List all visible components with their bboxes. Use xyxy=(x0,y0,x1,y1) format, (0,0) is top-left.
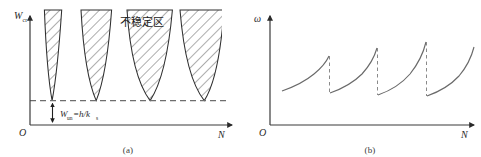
y-axis-label-b: ω xyxy=(254,13,261,24)
threshold-formula: W un =h/k s xyxy=(60,109,98,121)
figure-container: W cr N O 不稳定区 W un =h/k s (a) xyxy=(0,0,481,157)
origin-label-b: O xyxy=(259,127,266,138)
x-axis-label-a: N xyxy=(217,129,226,140)
caption-panel-b: (b) xyxy=(240,145,481,155)
origin-label-a: O xyxy=(19,127,26,138)
unstable-tongue-2 xyxy=(81,10,112,101)
caption-panel-a: (a) xyxy=(0,145,248,155)
threshold-formula-rhs: =h/k xyxy=(73,109,91,119)
threshold-formula-rhs-subscript: s xyxy=(96,115,98,121)
x-axis-label-b: N xyxy=(460,129,469,140)
sawtooth-segment-3 xyxy=(378,42,426,95)
unstable-tongue-4 xyxy=(180,10,224,101)
threshold-formula-lhs-subscript: un xyxy=(67,115,73,121)
sawtooth-drops-group xyxy=(330,42,427,96)
unstable-region-annotation: 不稳定区 xyxy=(120,15,164,29)
sawtooth-segment-1 xyxy=(282,56,329,91)
chart-b-svg: ω N O xyxy=(240,0,481,157)
y-axis-label-a-subscript: cr xyxy=(23,17,28,23)
chart-panel-b: ω N O (b) xyxy=(240,0,480,157)
chart-a-svg: W cr N O 不稳定区 W un =h/k s xyxy=(0,0,240,157)
chart-panel-a: W cr N O 不稳定区 W un =h/k s (a) xyxy=(0,0,240,157)
sawtooth-segment-2 xyxy=(330,48,377,93)
unstable-tongue-1 xyxy=(44,10,61,101)
sawtooth-segment-4 xyxy=(427,47,474,96)
